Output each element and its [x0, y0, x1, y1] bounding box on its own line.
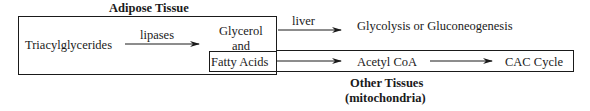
arrows-layer	[0, 0, 590, 111]
